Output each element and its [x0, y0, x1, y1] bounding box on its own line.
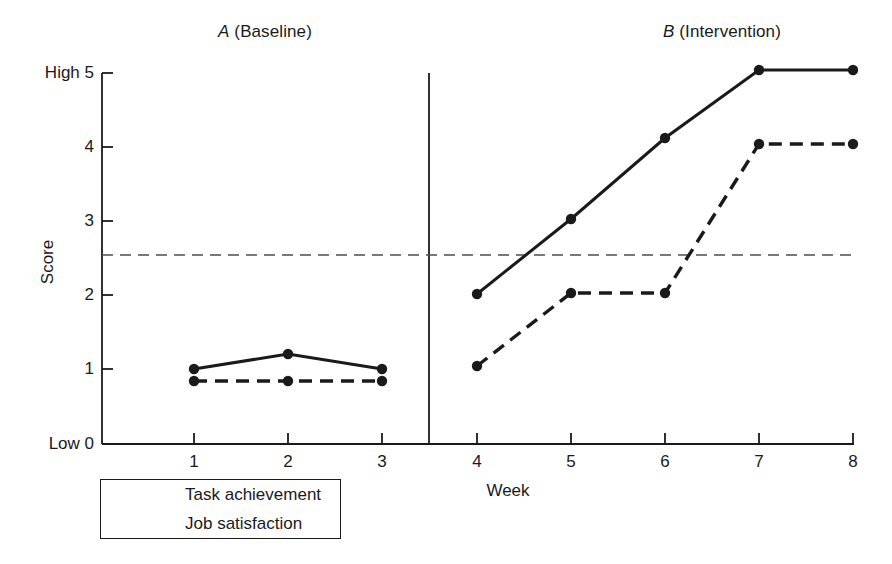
legend-dashed-line-icon [113, 487, 175, 503]
x-tick-label-8: 8 [848, 452, 857, 472]
job-satisfaction-line-phase-b [477, 70, 853, 294]
job-satisfaction-point-w5 [566, 214, 576, 224]
legend-item-task-achievement: Task achievement [101, 480, 340, 510]
job-satisfaction-point-w4 [472, 289, 482, 299]
legend-solid-line-icon [113, 516, 175, 532]
task-achievement-point-w4 [472, 361, 482, 371]
x-tick-label-5: 5 [566, 452, 575, 472]
phase-b-suffix: (Intervention) [675, 22, 781, 41]
job-satisfaction-point-w1 [189, 364, 199, 374]
x-tick-label-6: 6 [660, 452, 669, 472]
y-tick-label-4: 4 [85, 137, 94, 157]
series-job-satisfaction [189, 65, 858, 374]
axes-group [102, 73, 854, 444]
phase-b-title: B (Intervention) [663, 22, 781, 42]
chart-figure: A (Baseline) B (Intervention) High 5 4 3… [0, 0, 892, 564]
task-achievement-point-w3 [377, 376, 387, 386]
x-tick-label-1: 1 [189, 452, 198, 472]
task-achievement-point-w1 [189, 376, 199, 386]
x-tick-label-7: 7 [754, 452, 763, 472]
legend-item-job-satisfaction: Job satisfaction [101, 509, 340, 539]
x-axis-title: Week [486, 481, 529, 501]
task-achievement-point-w6 [660, 288, 670, 298]
x-tick-label-3: 3 [377, 452, 386, 472]
y-tick-label-2: 2 [85, 285, 94, 305]
job-satisfaction-point-w3 [377, 364, 387, 374]
task-achievement-point-w2 [283, 376, 293, 386]
job-satisfaction-point-w6 [660, 133, 670, 143]
y-tick-label-0: Low 0 [49, 434, 94, 454]
legend-label-task-achievement: Task achievement [185, 485, 321, 505]
job-satisfaction-point-w7 [754, 65, 764, 75]
task-achievement-point-w8 [848, 139, 858, 149]
x-tick-label-2: 2 [283, 452, 292, 472]
legend-label-job-satisfaction: Job satisfaction [185, 514, 302, 534]
job-satisfaction-point-w2 [283, 349, 293, 359]
phase-a-suffix: (Baseline) [230, 22, 312, 41]
x-tick-label-4: 4 [472, 452, 481, 472]
job-satisfaction-point-w8 [848, 65, 858, 75]
phase-b-letter: B [663, 22, 674, 41]
phase-a-title: A (Baseline) [218, 22, 312, 42]
y-tick-label-3: 3 [85, 211, 94, 231]
task-achievement-point-w7 [754, 139, 764, 149]
task-achievement-point-w5 [566, 288, 576, 298]
chart-legend: Task achievement Job satisfaction [100, 479, 341, 539]
y-tick-label-5: High 5 [45, 63, 94, 83]
y-tick-label-1: 1 [85, 359, 94, 379]
y-axis-title: Score [38, 240, 58, 284]
phase-a-letter: A [218, 22, 229, 41]
